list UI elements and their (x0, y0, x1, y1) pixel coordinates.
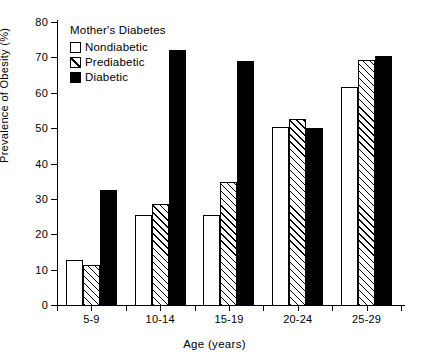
x-axis-tick-label: 15-19 (214, 313, 243, 325)
bar-group-bars (263, 22, 332, 305)
legend-swatch-diabetic (70, 72, 81, 83)
legend-label: Prediabetic (85, 56, 145, 68)
bar-group (263, 22, 332, 305)
y-axis-tick-label: 10 (35, 264, 48, 275)
bar-prediabetic (220, 182, 237, 305)
y-axis-tick-label: 30 (35, 193, 48, 204)
bar-group-bars (195, 22, 264, 305)
legend-swatch-nondiabetic (70, 42, 81, 53)
x-axis-boundary-tick (126, 305, 127, 311)
bar-prediabetic (358, 60, 375, 305)
y-axis-tick-label: 0 (42, 300, 48, 311)
legend-item: Nondiabetic (70, 41, 166, 53)
legend-item: Prediabetic (70, 56, 166, 68)
bar-prediabetic (152, 204, 169, 305)
x-axis-boundary-tick (57, 305, 58, 311)
bar-diabetic (169, 50, 186, 305)
x-axis-tick (298, 305, 299, 311)
x-axis-title: Age (years) (0, 338, 429, 350)
legend-label: Diabetic (85, 71, 128, 83)
bar-group (332, 22, 401, 305)
x-axis-tick (160, 305, 161, 311)
x-axis-tick-label: 20-24 (283, 313, 312, 325)
bar-diabetic (306, 128, 323, 305)
x-axis-tick-label: 25-29 (352, 313, 381, 325)
legend: Mother's Diabetes NondiabeticPrediabetic… (70, 24, 166, 86)
bar-nondiabetic (203, 215, 220, 305)
bar-prediabetic (289, 119, 306, 305)
x-axis-tick (91, 305, 92, 311)
y-axis-tick-label: 60 (35, 87, 48, 98)
x-axis-boundary-tick (332, 305, 333, 311)
x-axis-boundary-tick (263, 305, 264, 311)
bar-diabetic (375, 56, 392, 305)
bar-nondiabetic (341, 87, 358, 305)
y-axis-title: Prevalence of Obesity (%) (0, 28, 10, 163)
bar-group (195, 22, 264, 305)
x-axis-tick (229, 305, 230, 311)
y-axis-tick-label: 40 (35, 158, 48, 169)
legend-title: Mother's Diabetes (70, 24, 166, 36)
bar-group-bars (332, 22, 401, 305)
y-axis-tick-label: 50 (35, 123, 48, 134)
bar-nondiabetic (66, 260, 83, 305)
x-axis-boundary-tick (401, 305, 402, 311)
x-axis-tick-label: 5-9 (83, 313, 100, 325)
bar-diabetic (100, 190, 117, 305)
x-axis-line (57, 305, 405, 306)
y-axis-tick-label: 70 (35, 52, 48, 63)
bar-prediabetic (83, 265, 100, 305)
x-axis-tick (367, 305, 368, 311)
legend-swatch-prediabetic (70, 57, 81, 68)
y-axis-tick-label: 80 (35, 17, 48, 28)
y-axis-tick-label: 20 (35, 229, 48, 240)
x-axis-boundary-tick (195, 305, 196, 311)
x-axis-tick-label: 10-14 (146, 313, 175, 325)
bar-chart-figure: Prevalence of Obesity (%) 01020304050607… (0, 0, 429, 359)
bar-nondiabetic (135, 215, 152, 305)
legend-label: Nondiabetic (85, 41, 148, 53)
legend-entries: NondiabeticPrediabeticDiabetic (70, 41, 166, 83)
bar-nondiabetic (272, 127, 289, 305)
bar-diabetic (237, 61, 254, 305)
legend-item: Diabetic (70, 71, 166, 83)
